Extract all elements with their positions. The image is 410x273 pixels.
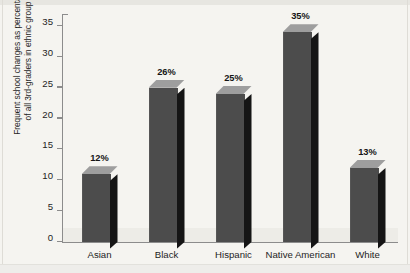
- frame-right-border: [407, 0, 408, 273]
- bar-front-face: [82, 174, 111, 242]
- bar-black: 26%: [149, 88, 177, 242]
- bar-value-label: 13%: [350, 147, 386, 157]
- bar-side-face: [177, 88, 185, 249]
- bar-top-face: [350, 160, 386, 168]
- y-axis-tick-label: 25: [42, 77, 53, 88]
- y-axis-tick-label: 35: [42, 16, 53, 27]
- y-axis-tick: [57, 241, 63, 242]
- y-axis-top-cap: [62, 14, 68, 15]
- y-axis-tick: [57, 117, 63, 118]
- bar-chart-figure: Frequent school changes as percentage of…: [0, 0, 410, 273]
- bar-value-label: 26%: [149, 67, 185, 77]
- y-axis-tick-label: 5: [48, 201, 53, 212]
- bar-top-face: [283, 24, 319, 32]
- x-axis-category-label: Native American: [266, 249, 336, 260]
- bar-top-face: [149, 80, 185, 88]
- y-axis-tick-label: 15: [42, 139, 53, 150]
- bar-value-label: 12%: [82, 153, 118, 163]
- frame-left-border: [2, 0, 3, 273]
- bar-front-face: [149, 88, 178, 242]
- x-axis-category-label: Black: [155, 249, 178, 260]
- y-axis-tick: [57, 86, 63, 87]
- bar-value-label: 25%: [216, 73, 252, 83]
- y-axis-tick: [57, 179, 63, 180]
- bar-native-american: 35%: [283, 32, 311, 242]
- bar-hispanic: 25%: [216, 94, 244, 242]
- y-axis-tick: [57, 25, 63, 26]
- y-axis-tick-label: 10: [42, 170, 53, 181]
- bar-asian: 12%: [82, 174, 110, 242]
- frame-bottom-border: [0, 264, 410, 273]
- bar-side-face: [311, 32, 319, 249]
- bar-side-face: [378, 168, 386, 249]
- y-axis-tick-label: 0: [48, 232, 53, 243]
- bar-top-face: [216, 86, 252, 94]
- bar-white: 13%: [350, 168, 378, 242]
- plot-area: 0510152025303512%Asian26%Black25%Hispani…: [62, 14, 397, 243]
- bar-front-face: [350, 168, 379, 242]
- y-axis-title-line2: of all 3rd-graders in ethnic group: [23, 0, 34, 166]
- y-axis-tick-label: 30: [42, 46, 53, 57]
- y-axis-tick: [57, 56, 63, 57]
- bar-side-face: [244, 94, 252, 249]
- x-axis-category-label: Asian: [88, 249, 112, 260]
- bar-top-face: [82, 166, 118, 174]
- bar-front-face: [283, 32, 312, 242]
- bar-side-face: [110, 174, 118, 249]
- y-axis-title-line1: Frequent school changes as percentage: [12, 0, 22, 135]
- y-axis-tick: [57, 148, 63, 149]
- y-axis-title: Frequent school changes as percentage of…: [12, 0, 42, 166]
- x-axis-category-label: Hispanic: [215, 249, 252, 260]
- y-axis-line: [62, 14, 63, 243]
- y-axis-tick-label: 20: [42, 108, 53, 119]
- bar-value-label: 35%: [283, 11, 319, 21]
- bar-front-face: [216, 94, 245, 242]
- x-axis-category-label: White: [355, 249, 380, 260]
- y-axis-tick: [57, 210, 63, 211]
